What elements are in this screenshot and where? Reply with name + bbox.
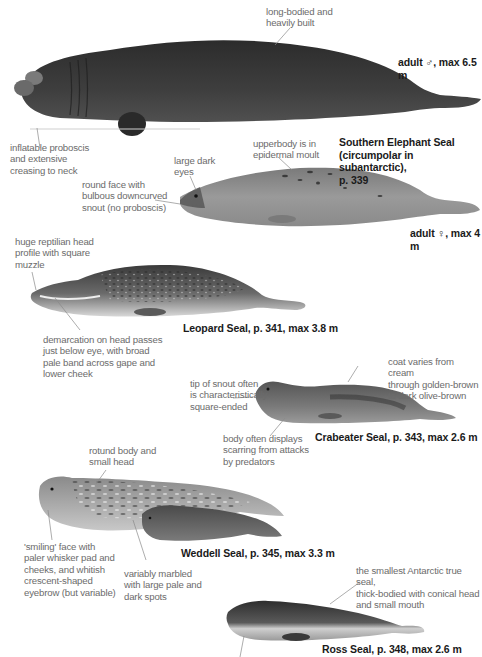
note-elephant-male-proboscis: inflatable proboscis and extensive creas… [10, 142, 89, 176]
label-elephant-female-size: adult ♀, max 4 m [410, 227, 482, 252]
elephant-seal-male-illustration [14, 40, 481, 136]
note-leopard-demarcation: demarcation on head passes just below ey… [43, 334, 162, 380]
note-crabeater-scarring: body often displays scarring from attack… [223, 433, 309, 467]
note-weddell-body: rotund body and small head [89, 445, 156, 468]
note-crabeater-snout: tip of snout often is characteristically… [190, 378, 267, 412]
caption-leopard-seal: Leopard Seal, p. 341, max 3.8 m [183, 322, 338, 335]
note-weddell-face: 'smiling' face with paler whisker pad an… [24, 541, 116, 598]
caption-ross-seal: Ross Seal, p. 348, max 2.6 m [322, 643, 462, 656]
note-elephant-male-body: long-bodied and heavily built [266, 6, 333, 29]
note-weddell-marbling: variably marbled with large pale and dar… [124, 568, 202, 602]
note-crabeater-coat: coat varies from cream through golden-br… [388, 356, 482, 402]
note-elephant-female-face: round face with bulbous downcurved snout… [82, 179, 167, 213]
note-elephant-female-eyes: large dark eyes [174, 155, 215, 178]
label-elephant-male-size: adult ♂, max 6.5 m [398, 56, 482, 81]
note-leopard-head: huge reptilian head profile with square … [15, 236, 94, 270]
note-elephant-female-moult: upperbody is in epidermal moult [253, 138, 319, 161]
caption-weddell-seal: Weddell Seal, p. 345, max 3.3 m [181, 547, 335, 560]
weddell-seal-illustration [39, 476, 284, 540]
caption-southern-elephant-seal: Southern Elephant Seal (circumpolar in s… [339, 136, 482, 186]
field-guide-plate: long-bodied and heavily built adult ♂, m… [0, 0, 482, 657]
note-ross-body: the smallest Antarctic true seal, thick-… [356, 565, 482, 611]
leopard-seal-illustration [31, 265, 306, 317]
caption-crabeater-seal: Crabeater Seal, p. 343, max 2.6 m [315, 431, 477, 444]
